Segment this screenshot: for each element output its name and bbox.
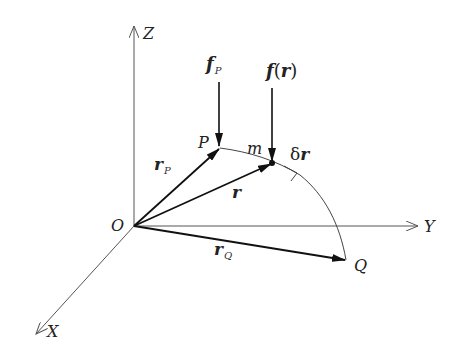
vector-r-q	[134, 226, 345, 260]
x-axis-label: X	[45, 322, 59, 341]
point-p-label: P	[197, 133, 209, 152]
point-m-label: m	[247, 139, 262, 158]
origin-label: O	[111, 216, 124, 235]
vector-r-q-label: rQ	[214, 239, 232, 261]
arc-direction-arrow-icon	[284, 166, 297, 181]
force-f-p-label: fP	[204, 53, 222, 76]
vector-r-p-label: rP	[154, 154, 171, 176]
x-axis	[36, 226, 134, 334]
work-diagram: Z Y X O P m Q rP r rQ fP f(r) δr	[0, 0, 472, 354]
particle-m-dot	[269, 160, 275, 166]
delta-r-label: δr	[290, 144, 310, 164]
y-axis-label: Y	[424, 217, 436, 236]
vector-r-label: r	[232, 182, 242, 202]
vector-r-p	[134, 149, 219, 226]
axes	[36, 26, 418, 334]
z-axis-label: Z	[142, 24, 155, 43]
force-f-r-label: f(r)	[264, 60, 297, 81]
point-q-label: Q	[354, 256, 367, 275]
